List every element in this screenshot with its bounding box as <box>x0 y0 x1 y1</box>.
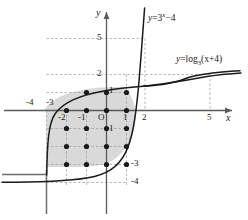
y-tick-5: 5 <box>97 33 102 42</box>
asymptote-lines <box>2 170 47 214</box>
shaded-region <box>44 87 136 167</box>
lattice-point <box>84 162 89 167</box>
lattice-point <box>104 162 109 167</box>
y-tick-neg3: -3 <box>131 159 139 168</box>
y-tick-neg1: -1 <box>106 124 114 133</box>
log-label-fn: log <box>186 54 198 64</box>
x-tick-1: 1 <box>123 113 128 122</box>
y-tick-2: 2 <box>97 69 102 78</box>
y-axis-arrow <box>104 12 110 19</box>
lattice-point <box>64 126 69 131</box>
lattice-point <box>64 144 69 149</box>
lattice-point <box>84 126 89 131</box>
x-tick-2: 2 <box>142 113 147 122</box>
lattice-point <box>104 144 109 149</box>
logarithmic-curve-label: y=log3(x+4) <box>176 55 222 66</box>
lattice-point <box>124 90 129 95</box>
x-tick-5: 5 <box>207 113 212 122</box>
log-label-arg: (x+4) <box>201 54 222 64</box>
x-axis-label: x <box>226 113 230 123</box>
y-tick-neg4: -4 <box>131 177 139 186</box>
exponential-curve-label: y=3x−4 <box>148 12 176 24</box>
x-tick-neg3: -3 <box>46 98 54 107</box>
lattice-point <box>64 162 69 167</box>
exp-label-tail: −4 <box>165 13 175 23</box>
lattice-point <box>84 90 89 95</box>
graph-canvas <box>0 0 248 220</box>
y-tick-1: 1 <box>109 86 114 95</box>
lattice-point <box>124 162 129 167</box>
logarithmic-curve-tail <box>143 73 241 86</box>
lattice-point <box>124 126 129 131</box>
math-graph-figure: x y O -4 -3 -2 -1 1 2 5 5 2 1 -1 -3 -4 y… <box>0 0 248 220</box>
lattice-point <box>124 144 129 149</box>
origin-label: O <box>98 113 105 122</box>
x-tick-neg2: -2 <box>58 113 66 122</box>
x-tick-neg1: -1 <box>78 113 86 122</box>
lattice-point <box>84 144 89 149</box>
y-axis-label: y <box>96 8 100 18</box>
x-tick-neg4: -4 <box>26 98 34 107</box>
